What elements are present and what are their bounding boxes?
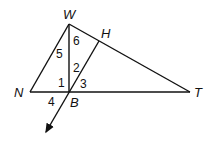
point-label-W: W — [63, 7, 77, 22]
angle-label-2: 2 — [73, 61, 80, 75]
angle-label-1: 1 — [58, 76, 65, 90]
angle-label-6: 6 — [73, 34, 80, 48]
segment-WT — [69, 24, 190, 92]
angle-label-4: 4 — [48, 95, 55, 109]
point-label-H: H — [101, 26, 111, 41]
angle-label-3: 3 — [80, 77, 87, 91]
point-label-T: T — [194, 85, 203, 100]
ray-HB — [46, 41, 99, 132]
geometry-diagram: W H N B T 1 2 3 4 5 6 — [0, 0, 212, 146]
point-label-B: B — [70, 95, 79, 110]
point-label-N: N — [14, 85, 24, 100]
angle-label-5: 5 — [56, 47, 63, 61]
